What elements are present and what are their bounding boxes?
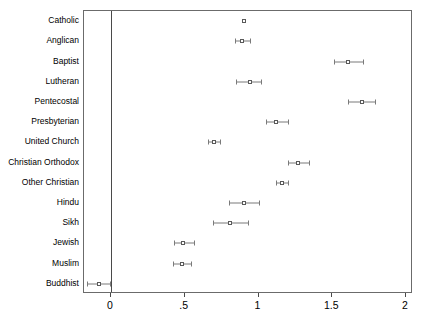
y-axis-category-labels: CatholicAnglicanBaptistLutheranPentecost… bbox=[0, 0, 79, 323]
x-axis-tick-label: 0 bbox=[107, 299, 113, 312]
forest-plot: CatholicAnglicanBaptistLutheranPentecost… bbox=[0, 0, 423, 323]
estimate-marker bbox=[296, 161, 300, 165]
estimate-marker bbox=[242, 201, 246, 205]
confidence-interval-cap bbox=[266, 120, 267, 125]
estimate-marker bbox=[240, 39, 244, 43]
y-axis-label: Pentecostal bbox=[0, 96, 79, 106]
estimate-marker bbox=[97, 282, 101, 286]
x-axis-tick bbox=[184, 293, 185, 297]
x-axis-tick bbox=[405, 293, 406, 297]
x-axis-tick-label: 2 bbox=[402, 299, 408, 312]
confidence-interval-cap bbox=[348, 99, 349, 104]
confidence-interval-cap bbox=[236, 79, 237, 84]
confidence-interval-cap bbox=[173, 261, 174, 266]
confidence-interval-cap bbox=[309, 160, 310, 165]
y-axis-label: Muslim bbox=[0, 258, 79, 268]
confidence-interval-cap bbox=[288, 160, 289, 165]
x-axis-tick-label: 1.5 bbox=[324, 299, 339, 312]
confidence-interval-cap bbox=[208, 140, 209, 145]
y-axis-label: Catholic bbox=[0, 15, 79, 25]
y-axis-label: Christian Orthodox bbox=[0, 157, 79, 167]
confidence-interval-cap bbox=[229, 201, 230, 206]
y-axis-label: Anglican bbox=[0, 35, 79, 45]
plot-area bbox=[83, 10, 412, 293]
estimate-marker bbox=[248, 80, 252, 84]
x-axis-tick bbox=[110, 293, 111, 297]
x-axis-tick bbox=[331, 293, 332, 297]
confidence-interval-cap bbox=[375, 99, 376, 104]
confidence-interval-cap bbox=[363, 59, 364, 64]
confidence-interval-cap bbox=[87, 281, 88, 286]
confidence-interval-cap bbox=[259, 201, 260, 206]
estimate-marker bbox=[280, 181, 284, 185]
confidence-interval-cap bbox=[261, 79, 262, 84]
estimate-marker bbox=[180, 262, 184, 266]
estimate-marker bbox=[360, 100, 364, 104]
y-axis-label: Hindu bbox=[0, 197, 79, 207]
confidence-interval-cap bbox=[213, 221, 214, 226]
y-axis-label: Baptist bbox=[0, 56, 79, 66]
y-axis-label: Presbyterian bbox=[0, 116, 79, 126]
confidence-interval-cap bbox=[235, 39, 236, 44]
confidence-interval-cap bbox=[276, 180, 277, 185]
estimate-marker bbox=[228, 221, 232, 225]
confidence-interval-cap bbox=[288, 180, 289, 185]
estimate-marker bbox=[242, 19, 246, 23]
x-axis: 0.511.52 bbox=[83, 293, 412, 323]
estimate-marker bbox=[346, 60, 350, 64]
confidence-interval-cap bbox=[250, 39, 251, 44]
x-axis-tick-label: .5 bbox=[179, 299, 188, 312]
confidence-interval-cap bbox=[220, 140, 221, 145]
confidence-interval-cap bbox=[248, 221, 249, 226]
y-axis-label: Buddhist bbox=[0, 278, 79, 288]
confidence-interval-cap bbox=[334, 59, 335, 64]
confidence-interval-cap bbox=[288, 120, 289, 125]
estimate-marker bbox=[181, 241, 185, 245]
y-axis-label: Lutheran bbox=[0, 76, 79, 86]
y-axis-label: United Church bbox=[0, 136, 79, 146]
confidence-interval-cap bbox=[174, 241, 175, 246]
zero-reference-line bbox=[111, 11, 112, 292]
x-axis-tick-label: 1 bbox=[255, 299, 261, 312]
confidence-interval-cap bbox=[110, 281, 111, 286]
estimate-marker bbox=[212, 140, 216, 144]
confidence-interval-cap bbox=[194, 241, 195, 246]
y-axis-label: Other Christian bbox=[0, 177, 79, 187]
confidence-interval-cap bbox=[191, 261, 192, 266]
x-axis-tick bbox=[258, 293, 259, 297]
y-axis-label: Sikh bbox=[0, 217, 79, 227]
y-axis-label: Jewish bbox=[0, 237, 79, 247]
estimate-marker bbox=[274, 120, 278, 124]
